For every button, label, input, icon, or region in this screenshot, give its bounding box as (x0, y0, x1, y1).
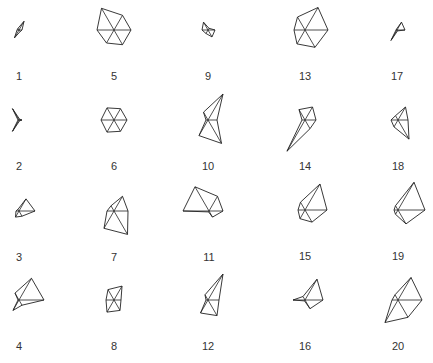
star-label: 19 (392, 251, 404, 262)
star-glyph (394, 182, 425, 224)
star-label: 1 (16, 71, 22, 82)
star-label: 17 (391, 71, 403, 82)
star-label: 2 (16, 161, 22, 172)
star-spoke (208, 94, 223, 120)
star-spoke (398, 278, 411, 301)
star-label: 7 (111, 252, 117, 263)
star-label: 14 (299, 161, 311, 172)
star-glyph (104, 196, 128, 234)
star-spoke (208, 300, 217, 316)
star-label: 6 (111, 161, 117, 172)
star-outline (298, 184, 327, 222)
star-glyph (287, 107, 316, 151)
star-spoke (398, 107, 406, 120)
star-glyph (298, 184, 327, 222)
star-spoke (107, 30, 115, 43)
star-spoke (305, 184, 320, 210)
star-spoke (303, 297, 305, 301)
star-spoke (396, 116, 399, 120)
star-spoke (107, 120, 114, 132)
star-label: 13 (299, 71, 311, 82)
star-outline (293, 279, 323, 309)
star-spoke (305, 30, 315, 47)
star-spoke (108, 290, 114, 300)
star-outline (97, 8, 131, 44)
star-spoke (305, 279, 317, 300)
star-spoke (305, 107, 313, 120)
star-spoke (19, 278, 32, 300)
star-spoke (107, 300, 114, 312)
star-outline (391, 22, 405, 40)
star-spoke (396, 210, 399, 214)
star-spoke (114, 30, 123, 45)
star-spoke (398, 120, 409, 139)
star-spoke (114, 211, 128, 234)
star-glyph (293, 279, 323, 309)
star-spoke (19, 211, 22, 216)
star-label: 18 (392, 161, 404, 172)
star-glyph (15, 21, 25, 38)
star-label: 4 (16, 341, 22, 352)
star-label: 16 (299, 341, 311, 352)
star-label: 3 (16, 252, 22, 263)
star-glyph (13, 278, 44, 310)
star-spoke (114, 15, 123, 30)
star-spoke (301, 202, 306, 210)
star-label: 12 (202, 341, 214, 352)
star-spoke (297, 30, 305, 44)
star-glyph (391, 107, 409, 139)
star-spoke (398, 210, 406, 224)
star-plot-grid (0, 0, 433, 363)
star-glyph (391, 22, 405, 40)
star-outline (199, 94, 223, 143)
star-glyph (294, 8, 328, 48)
star-glyph (202, 22, 215, 37)
star-spoke (114, 196, 123, 211)
star-spoke (206, 30, 208, 34)
star-spoke (111, 206, 114, 211)
star-glyph (13, 109, 23, 132)
star-spoke (114, 120, 121, 131)
star-spoke (398, 300, 408, 317)
star-glyph (183, 187, 223, 217)
star-label: 5 (111, 71, 117, 82)
star-glyph (16, 199, 36, 217)
star-spoke (396, 206, 399, 210)
star-spoke (395, 295, 398, 300)
star-outline (183, 187, 223, 217)
star-label: 9 (205, 71, 211, 82)
star-outline (394, 182, 425, 224)
star-spoke (305, 120, 310, 129)
star-glyph (201, 274, 224, 316)
star-glyph (106, 286, 122, 312)
star-label: 8 (111, 341, 117, 352)
star-label: 20 (392, 341, 404, 352)
star-glyph (97, 8, 131, 44)
star-spoke (385, 300, 398, 323)
star-glyph (101, 108, 127, 132)
star-glyph (199, 94, 223, 143)
star-spoke (209, 196, 218, 211)
star-outline (16, 199, 36, 217)
star-spoke (398, 182, 414, 210)
star-spoke (195, 187, 209, 211)
star-spoke (114, 109, 121, 120)
star-spoke (394, 120, 398, 127)
star-spoke (107, 108, 114, 120)
star-spoke (114, 300, 120, 310)
star-spoke (300, 210, 305, 219)
star-spoke (19, 300, 22, 305)
star-label: 10 (202, 161, 214, 172)
star-label: 11 (203, 252, 214, 263)
star-label: 15 (299, 251, 311, 262)
star-spoke (298, 17, 306, 30)
star-glyph (385, 278, 422, 323)
star-outline (294, 8, 328, 48)
